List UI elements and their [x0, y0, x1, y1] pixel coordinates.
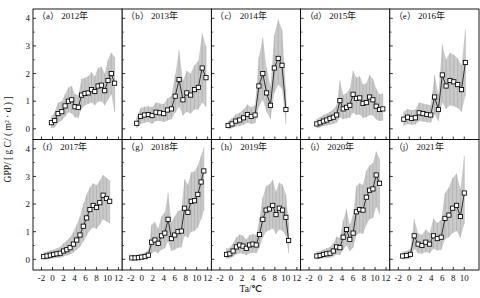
data-point-marker — [459, 88, 463, 92]
x-tick-label: 4 — [429, 273, 434, 283]
y-tick-label: 0 — [26, 255, 31, 265]
data-point-marker — [106, 78, 110, 82]
data-point-marker — [348, 237, 352, 241]
x-tick-label: 4 — [251, 273, 256, 283]
data-point-marker — [181, 98, 185, 102]
data-point-marker — [374, 173, 378, 177]
data-point-marker — [78, 233, 82, 237]
data-point-marker — [109, 72, 113, 76]
data-point-marker — [76, 105, 80, 109]
data-point-marker — [463, 60, 467, 64]
data-point-marker — [156, 241, 160, 245]
panel-i: -2024681012（i） 2020年 — [301, 140, 391, 284]
x-tick-label: 8 — [362, 273, 367, 283]
data-point-marker — [166, 217, 170, 221]
panel-title-e: （e） 2016年 — [394, 10, 445, 21]
data-point-marker — [88, 208, 92, 212]
data-point-marker — [456, 83, 460, 87]
data-point-marker — [94, 205, 98, 209]
data-point-marker — [71, 242, 75, 246]
data-point-marker — [135, 121, 139, 125]
x-tick-label: 2 — [329, 273, 334, 283]
data-point-marker — [281, 208, 285, 212]
data-point-marker — [371, 98, 375, 102]
data-point-marker — [284, 215, 288, 219]
data-point-marker — [196, 85, 200, 89]
panel-frame-d — [301, 9, 390, 140]
data-point-marker — [344, 227, 348, 231]
data-point-marker — [93, 89, 97, 93]
data-point-marker — [108, 199, 112, 203]
panel-e: （e） 2016年 — [390, 9, 479, 140]
data-point-marker — [146, 253, 150, 257]
x-tick-label: -2 — [395, 273, 403, 283]
x-tick-label: 6 — [83, 273, 88, 283]
data-point-marker — [192, 199, 196, 203]
data-point-marker — [433, 95, 437, 99]
data-point-marker — [99, 83, 103, 87]
figure-panel-grid: 01234（a） 2012年（b） 2013年（c） 2014年（d） 2015… — [0, 0, 480, 298]
data-point-marker — [261, 217, 265, 221]
x-tick-label: 4 — [161, 273, 166, 283]
data-point-marker — [455, 203, 459, 207]
data-point-marker — [444, 84, 448, 88]
data-point-marker — [440, 73, 444, 77]
x-tick-label: 8 — [183, 273, 188, 283]
x-tick-label: 2 — [240, 273, 245, 283]
data-point-marker — [276, 56, 280, 60]
y-tick-label: 4 — [26, 144, 31, 154]
data-point-marker — [429, 113, 433, 117]
x-tick-label: 6 — [440, 273, 445, 283]
x-tick-label: 0 — [229, 273, 234, 283]
panel-title-c: （c） 2014年 — [215, 10, 266, 21]
panel-title-j: （j） 2021年 — [394, 141, 444, 152]
data-point-marker — [364, 101, 368, 105]
x-tick-label: 12 — [292, 273, 301, 283]
x-tick-label: -2 — [216, 273, 224, 283]
panel-frame-c — [211, 9, 300, 140]
panel-h: -2024681012（h） 2019年 — [211, 140, 301, 284]
x-axis-label: Ta/℃ — [240, 284, 263, 294]
data-point-marker — [408, 252, 412, 256]
y-tick-label: 3 — [26, 172, 31, 182]
panel-frame-j — [390, 140, 479, 271]
data-point-marker — [338, 246, 342, 250]
panel-title-b: （b） 2013年 — [126, 10, 178, 21]
data-point-marker — [169, 107, 173, 111]
data-point-marker — [196, 192, 200, 196]
data-point-marker — [428, 242, 432, 246]
y-tick-label: 3 — [26, 41, 31, 51]
data-point-marker — [177, 78, 181, 82]
panel-title-i: （i） 2020年 — [305, 141, 355, 152]
data-point-marker — [274, 213, 278, 217]
x-tick-label: 0 — [318, 273, 323, 283]
data-point-marker — [280, 63, 284, 67]
x-tick-label: 12 — [203, 273, 212, 283]
panel-a: 01234（a） 2012年 — [26, 9, 123, 140]
data-point-marker — [85, 216, 89, 220]
data-point-marker — [257, 84, 261, 88]
data-point-marker — [204, 76, 208, 80]
data-point-marker — [436, 107, 440, 111]
data-point-marker — [189, 93, 193, 97]
data-point-marker — [199, 180, 203, 184]
data-point-marker — [284, 107, 288, 111]
x-tick-label: -2 — [38, 273, 46, 283]
data-point-marker — [186, 210, 190, 214]
y-tick-label: 2 — [26, 199, 31, 209]
data-point-marker — [447, 213, 451, 217]
x-tick-label: 0 — [139, 273, 144, 283]
panel-b: （b） 2013年 — [122, 9, 211, 140]
data-point-marker — [377, 181, 381, 185]
panel-j: -20246810（j） 2021年 — [390, 140, 479, 284]
x-tick-label: 6 — [262, 273, 267, 283]
x-tick-label: 8 — [94, 273, 99, 283]
x-tick-label: 4 — [340, 273, 345, 283]
x-tick-label: 2 — [150, 273, 155, 283]
x-tick-label: 12 — [382, 273, 391, 283]
data-point-marker — [348, 103, 352, 107]
panel-title-h: （h） 2019年 — [215, 141, 267, 152]
panel-g: -2024681012（g） 2018年 — [122, 140, 212, 284]
data-point-marker — [341, 235, 345, 239]
data-point-marker — [335, 113, 339, 117]
